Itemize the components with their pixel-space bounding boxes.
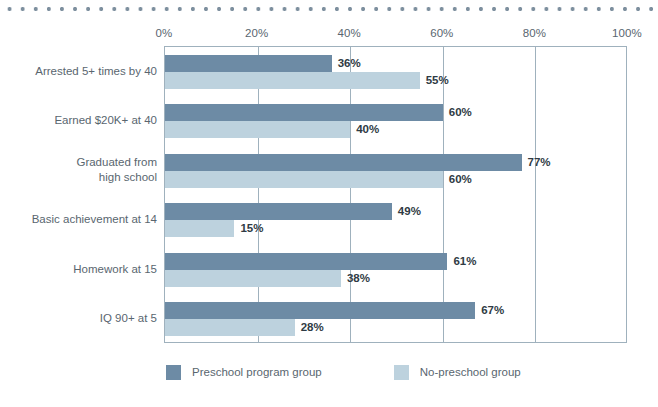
gridline-20 bbox=[258, 47, 259, 342]
category-label-4: Homework at 15 bbox=[0, 262, 157, 277]
bar-1-3 bbox=[165, 220, 234, 237]
plot-area: 36%55%60%40%77%60%49%15%61%38%67%28% bbox=[164, 46, 627, 343]
bar-value-label-0-2: 77% bbox=[522, 154, 551, 171]
category-label-0: Arrested 5+ times by 40 bbox=[0, 64, 157, 79]
category-axis-labels: Arrested 5+ times by 40Earned $20K+ at 4… bbox=[0, 46, 157, 343]
bar-0-3 bbox=[165, 203, 392, 220]
category-label-1: Earned $20K+ at 40 bbox=[0, 113, 157, 128]
category-label-line: Graduated from bbox=[0, 155, 157, 170]
category-label-line: Earned $20K+ at 40 bbox=[0, 113, 157, 128]
bar-chart-figure: 0%20%40%60%80%100% Arrested 5+ times by … bbox=[0, 0, 658, 407]
bar-1-2 bbox=[165, 171, 443, 188]
gridline-60 bbox=[443, 47, 444, 342]
bar-1-0 bbox=[165, 72, 420, 89]
bar-value-label-1-0: 55% bbox=[420, 72, 449, 89]
x-axis-tick-20: 20% bbox=[245, 27, 268, 39]
bar-value-label-1-1: 40% bbox=[350, 121, 379, 138]
legend-label-0: Preschool program group bbox=[192, 366, 322, 378]
gridline-40 bbox=[350, 47, 351, 342]
x-axis-tick-80: 80% bbox=[523, 27, 546, 39]
chart-legend: Preschool program groupNo-preschool grou… bbox=[164, 362, 627, 382]
legend-label-1: No-preschool group bbox=[420, 366, 521, 378]
bar-1-5 bbox=[165, 319, 295, 336]
category-label-line: Arrested 5+ times by 40 bbox=[0, 64, 157, 79]
bar-value-label-1-4: 38% bbox=[341, 270, 370, 287]
legend-swatch-icon-0 bbox=[166, 365, 181, 380]
bar-0-0 bbox=[165, 55, 332, 72]
x-axis-tick-40: 40% bbox=[338, 27, 361, 39]
category-label-line: Homework at 15 bbox=[0, 262, 157, 277]
legend-item-1[interactable]: No-preschool group bbox=[394, 365, 521, 380]
category-label-line: Basic achievement at 14 bbox=[0, 212, 157, 227]
bar-value-label-0-0: 36% bbox=[332, 55, 361, 72]
category-label-3: Basic achievement at 14 bbox=[0, 212, 157, 227]
legend-item-0[interactable]: Preschool program group bbox=[166, 365, 322, 380]
bar-0-5 bbox=[165, 302, 475, 319]
category-label-line: IQ 90+ at 5 bbox=[0, 311, 157, 326]
bar-0-4 bbox=[165, 253, 447, 270]
category-label-2: Graduated fromhigh school bbox=[0, 155, 157, 184]
bar-0-2 bbox=[165, 154, 522, 171]
category-label-line: high school bbox=[0, 170, 157, 185]
bar-value-label-1-3: 15% bbox=[234, 220, 263, 237]
bar-value-label-0-1: 60% bbox=[443, 104, 472, 121]
x-axis-tick-100: 100% bbox=[612, 27, 642, 39]
bar-1-1 bbox=[165, 121, 350, 138]
x-axis-tick-60: 60% bbox=[430, 27, 453, 39]
category-label-5: IQ 90+ at 5 bbox=[0, 311, 157, 326]
bar-value-label-0-4: 61% bbox=[447, 253, 476, 270]
bar-value-label-1-2: 60% bbox=[443, 171, 472, 188]
bar-value-label-0-5: 67% bbox=[475, 302, 504, 319]
x-axis-tick-0: 0% bbox=[156, 27, 173, 39]
bar-value-label-0-3: 49% bbox=[392, 203, 421, 220]
bar-value-label-1-5: 28% bbox=[295, 319, 324, 336]
bar-0-1 bbox=[165, 104, 443, 121]
bar-1-4 bbox=[165, 270, 341, 287]
gridline-80 bbox=[535, 47, 536, 342]
legend-swatch-icon-1 bbox=[394, 365, 409, 380]
